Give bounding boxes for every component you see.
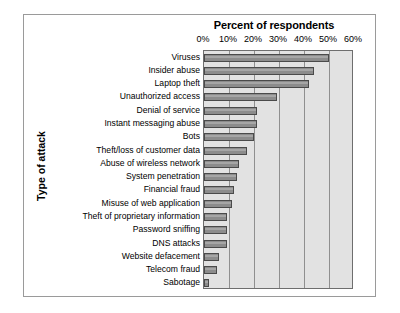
x-tick-label: 30% [265,34,291,44]
bar [204,266,217,274]
bar [204,120,257,128]
category-label: Bots [40,131,200,141]
category-label: Website defacement [40,251,200,261]
category-label: System penetration [40,171,200,181]
x-tick-label: 10% [215,34,241,44]
bar [204,133,254,141]
plot-area [203,50,353,289]
x-tick-label: 60% [340,34,366,44]
bar [204,80,309,88]
bar [204,54,329,62]
category-label: Financial fraud [40,184,200,194]
x-tick-label: 40% [290,34,316,44]
x-tick-label: 20% [240,34,266,44]
category-label: Sabotage [40,277,200,287]
category-label: Unauthorized access [40,91,200,101]
category-label: Laptop theft [40,78,200,88]
x-tick-label: 50% [315,34,341,44]
bar [204,240,227,248]
y-axis-category-labels: VirusesInsider abuseLaptop theftUnauthor… [40,50,200,289]
bar [204,186,234,194]
category-label: Instant messaging abuse [40,118,200,128]
bar [204,173,237,181]
bar [204,160,239,168]
bar [204,279,209,287]
category-label: Viruses [40,52,200,62]
x-tick-label: 0% [190,34,216,44]
category-label: Misuse of web application [40,198,200,208]
bar [204,226,227,234]
bar [204,93,277,101]
bar [204,213,227,221]
category-label: Telecom fraud [40,264,200,274]
category-label: Abuse of wireless network [40,158,200,168]
category-label: Password sniffing [40,224,200,234]
bar [204,253,219,261]
category-label: Theft/loss of customer data [40,145,200,155]
category-label: Insider abuse [40,65,200,75]
x-axis-tick-labels: 0%10%20%30%40%50%60% [188,34,364,46]
category-label: DNS attacks [40,238,200,248]
bar [204,200,232,208]
chart-title: Percent of respondents [194,19,354,31]
bar [204,147,247,155]
category-label: Denial of service [40,105,200,115]
gridline [329,51,330,288]
bar [204,67,314,75]
bar [204,107,257,115]
category-label: Theft of proprietary information [40,211,200,221]
